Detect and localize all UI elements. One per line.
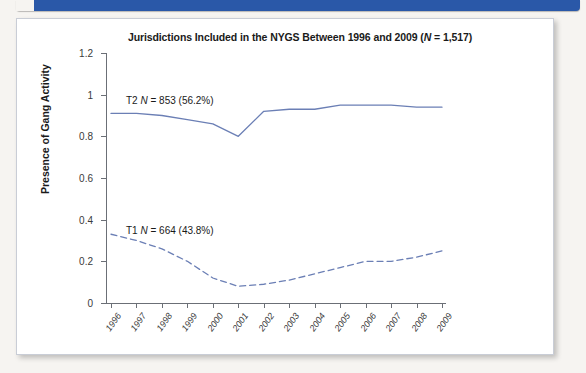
- y-tick: 0: [101, 303, 106, 304]
- series-lines: [106, 53, 530, 303]
- x-tick: [213, 303, 214, 308]
- x-tick: [366, 303, 367, 308]
- x-tick-label: 2005: [333, 311, 353, 333]
- series-annotation-t1-italic-n: N: [140, 225, 147, 236]
- x-tick-label: 1996: [104, 311, 124, 333]
- x-tick-label: 1999: [180, 311, 200, 333]
- y-axis-title: Presence of Gang Activity: [39, 64, 51, 194]
- banner-notch: [16, 0, 34, 11]
- y-tick-label: 0.4: [79, 214, 93, 225]
- x-tick: [391, 303, 392, 308]
- x-tick: [340, 303, 341, 308]
- y-tick-label: 1.2: [79, 48, 93, 59]
- x-tick: [442, 303, 443, 308]
- x-tick: [264, 303, 265, 308]
- x-tick: [315, 303, 316, 308]
- x-tick-label: 2004: [307, 311, 327, 333]
- series-annotation-t1-tail: = 664 (43.8%): [148, 225, 214, 236]
- series-line-t2: [111, 105, 442, 136]
- page-background: Jurisdictions Included in the NYGS Betwe…: [0, 0, 586, 373]
- x-tick-label: 2003: [282, 311, 302, 333]
- series-annotation-t2-italic-n: N: [140, 95, 147, 106]
- series-annotation-t2-lead: T2: [126, 95, 140, 106]
- chart-title-lead: Jurisdictions Included in the NYGS Betwe…: [128, 31, 424, 43]
- x-tick-label: 2006: [358, 311, 378, 333]
- chart-title-tail: = 1,517): [431, 31, 472, 43]
- x-tick: [162, 303, 163, 308]
- figure-card: Jurisdictions Included in the NYGS Betwe…: [16, 18, 554, 355]
- y-tick-label: 0.2: [79, 256, 93, 267]
- series-annotation-t1: T1 N = 664 (43.8%): [126, 225, 214, 236]
- x-tick: [289, 303, 290, 308]
- x-tick: [187, 303, 188, 308]
- x-tick: [417, 303, 418, 308]
- x-tick-label: 1997: [129, 311, 149, 333]
- x-tick: [111, 303, 112, 308]
- x-tick-label: 2001: [231, 311, 251, 333]
- y-tick-label: 1: [87, 89, 93, 100]
- y-tick-label: 0: [87, 298, 93, 309]
- x-tick: [136, 303, 137, 308]
- chart-title: Jurisdictions Included in the NYGS Betwe…: [17, 31, 553, 43]
- y-tick-label: 0.6: [79, 173, 93, 184]
- x-axis-line: [106, 303, 446, 304]
- x-tick-label: 2002: [256, 311, 276, 333]
- series-annotation-t2: T2 N = 853 (56.2%): [126, 95, 214, 106]
- x-tick-label: 2009: [435, 311, 455, 333]
- x-tick: [238, 303, 239, 308]
- page-banner-strip: [16, 0, 580, 11]
- x-tick-label: 2007: [384, 311, 404, 333]
- series-annotation-t1-lead: T1: [126, 225, 140, 236]
- y-tick-label: 0.8: [79, 131, 93, 142]
- x-tick-label: 1998: [154, 311, 174, 333]
- x-tick-label: 2000: [205, 311, 225, 333]
- plot-area: 00.20.40.60.811.2 1996199719981999200020…: [106, 53, 530, 303]
- series-line-t1: [111, 234, 442, 286]
- x-tick-label: 2008: [409, 311, 429, 333]
- series-annotation-t2-tail: = 853 (56.2%): [148, 95, 214, 106]
